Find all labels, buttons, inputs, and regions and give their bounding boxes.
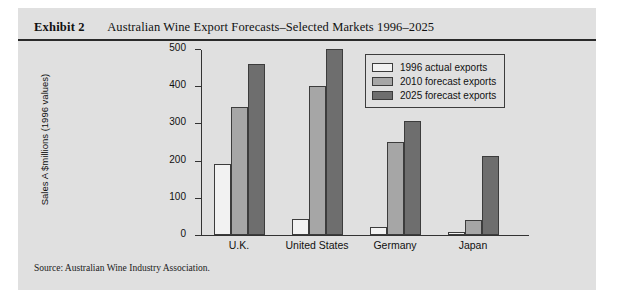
bar [309,86,326,235]
bar [292,219,309,235]
bar [326,49,343,235]
bar [248,64,265,235]
x-axis-category-label: Japan [459,239,488,251]
chart-legend: 1996 actual exports2010 forecast exports… [365,54,505,108]
bar-group: United States [285,49,349,235]
y-axis-tick: 100 [195,198,201,199]
bar [404,121,421,235]
y-axis-tick-label: 100 [169,191,186,202]
y-axis-tick: 0 [195,235,201,236]
legend-label: 2025 forecast exports [400,90,496,101]
y-axis-tick: 200 [195,161,201,162]
y-axis-line [201,50,202,236]
y-axis-tick-label: 400 [169,79,186,90]
legend-swatch [372,63,393,72]
title-divider [18,39,596,41]
legend-label: 2010 forecast exports [400,76,496,87]
bar-group: U.K. [207,49,271,235]
legend-item: 2010 forecast exports [372,74,496,88]
source-note: Source: Australian Wine Industry Associa… [34,263,210,273]
legend-swatch [372,77,393,86]
bar-group-bars [285,49,349,235]
exhibit-panel: Exhibit 2 Australian Wine Export Forecas… [18,8,596,290]
y-axis-tick-label: 200 [169,154,186,165]
exhibit-title: Australian Wine Export Forecasts–Selecte… [107,20,434,34]
legend-label: 1996 actual exports [400,62,487,73]
bar [370,227,387,235]
legend-swatch [372,91,393,100]
x-axis-category-label: Germany [373,239,416,251]
bar-chart: Sales A $millions (1996 values) 01002003… [18,42,596,260]
legend-item: 2025 forecast exports [372,88,496,102]
y-axis-title: Sales A $millions (1996 values) [39,55,50,225]
bar-group-bars [207,49,271,235]
x-axis-category-label: United States [285,239,348,251]
y-axis-tick-label: 500 [169,42,186,53]
y-axis-tick: 400 [195,86,201,87]
bar [387,142,404,235]
y-axis-tick-label: 300 [169,116,186,127]
exhibit-header: Exhibit 2 Australian Wine Export Forecas… [34,17,586,39]
bar [482,156,499,235]
y-axis-tick: 500 [195,49,201,50]
bar [231,107,248,235]
x-axis-category-label: U.K. [229,239,249,251]
x-axis-line [201,235,529,236]
y-axis-tick-label: 0 [180,228,186,239]
bar [214,164,231,235]
bar [448,232,465,235]
exhibit-label: Exhibit 2 [34,20,85,34]
y-axis-tick: 300 [195,123,201,124]
legend-item: 1996 actual exports [372,60,496,74]
bar [465,220,482,235]
